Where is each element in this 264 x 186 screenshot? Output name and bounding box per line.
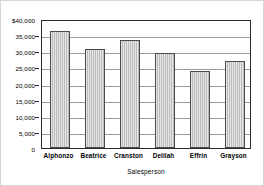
bar[interactable] [225, 61, 245, 148]
y-tick-label: 20,000 [15, 81, 35, 88]
y-tick-mark [35, 101, 39, 102]
x-axis: AlphonzoBeatriceCranstonDelilahEffrinGra… [41, 152, 251, 164]
bar[interactable] [190, 71, 210, 148]
x-tick-label: Alphonzo [44, 152, 74, 159]
bar-slot [182, 21, 217, 148]
bar[interactable] [155, 53, 175, 148]
y-tick-mark [35, 52, 39, 53]
y-tick-label: 0 [31, 146, 35, 153]
bar-slot [112, 21, 147, 148]
x-tick-label: Cranston [114, 152, 143, 159]
bar-slot [77, 21, 112, 148]
y-axis: $40,00035,00030,00025,00020,00015,00010,… [1, 20, 39, 149]
bar-slot [147, 21, 182, 148]
y-tick-mark [35, 68, 39, 69]
bar-chart-figure: $40,00035,00030,00025,00020,00015,00010,… [0, 0, 264, 186]
plot-area [41, 20, 251, 149]
y-tick-label: 10,000 [15, 113, 35, 120]
bar[interactable] [85, 49, 105, 148]
y-tick-mark [35, 117, 39, 118]
y-tick-label: 15,000 [15, 97, 35, 104]
bar[interactable] [50, 31, 70, 148]
x-tick-label: Grayson [220, 152, 247, 159]
y-tick-mark [35, 133, 39, 134]
x-tick-label: Delilah [153, 152, 175, 159]
y-tick-label: 30,000 [15, 49, 35, 56]
y-tick-label: $40,000 [12, 17, 35, 24]
x-tick-label: Beatrice [80, 152, 106, 159]
bars-group [42, 21, 250, 148]
x-tick-label: Effrin [190, 152, 207, 159]
x-axis-title: Salesperson [41, 168, 251, 175]
bar-slot [217, 21, 252, 148]
y-tick-label: 35,000 [15, 33, 35, 40]
bar[interactable] [120, 40, 140, 148]
y-tick-label: 5,000 [19, 129, 35, 136]
y-tick-mark [35, 36, 39, 37]
bar-slot [42, 21, 77, 148]
y-tick-label: 25,000 [15, 65, 35, 72]
y-tick-mark [35, 85, 39, 86]
